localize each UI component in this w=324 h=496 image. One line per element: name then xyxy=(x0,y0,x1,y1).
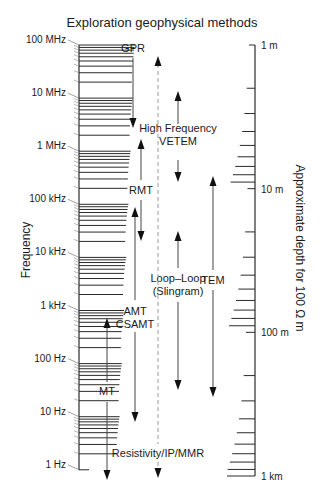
frequency-label: 10 kHz xyxy=(35,246,66,257)
method-gpr: GPR xyxy=(121,42,145,120)
method-label: MT xyxy=(99,385,115,397)
method-label: RMT xyxy=(129,184,153,196)
frequency-label: 10 MHz xyxy=(32,87,66,98)
diagram-canvas: Exploration geophysical methods 100 MHz1… xyxy=(0,0,324,496)
method-label: VETEM xyxy=(159,135,197,147)
depth-label: 1 km xyxy=(261,471,283,482)
method-rmt: RMT xyxy=(129,147,153,233)
depth-axis: 1 m10 m100 m1 km xyxy=(227,40,289,482)
depth-axis-title: Approximate depth for 100 Ω m xyxy=(293,164,307,331)
method-high-frequency-vetem: High FrequencyVETEM xyxy=(139,99,217,174)
method-label: GPR xyxy=(121,42,145,54)
method-label: Resistivity/IP/MMR xyxy=(112,447,204,459)
diagram-svg: Exploration geophysical methods 100 MHz1… xyxy=(0,0,324,496)
frequency-label: 100 kHz xyxy=(29,193,66,204)
frequency-label: 1 MHz xyxy=(37,140,66,151)
method-label: CSAMT xyxy=(116,318,155,330)
frequency-label: 1 kHz xyxy=(40,300,66,311)
frequency-axis: 100 MHz10 MHz1 MHz100 kHz10 kHz1 kHz100 … xyxy=(26,34,135,470)
method-label: (Slingram) xyxy=(153,285,204,297)
method-label: Loop–Loop xyxy=(150,272,205,284)
depth-label: 100 m xyxy=(261,327,289,338)
depth-label: 10 m xyxy=(261,184,283,195)
frequency-label: 100 Hz xyxy=(34,353,66,364)
depth-label: 1 m xyxy=(261,40,278,51)
method-label: High Frequency xyxy=(139,122,217,134)
diagram-title: Exploration geophysical methods xyxy=(67,15,258,30)
method-label: TEM xyxy=(201,274,224,286)
frequency-label: 1 Hz xyxy=(45,459,66,470)
frequency-label: 100 MHz xyxy=(26,34,66,45)
frequency-label: 10 Hz xyxy=(40,406,66,417)
frequency-axis-title: Frequency xyxy=(19,222,33,279)
method-label: AMT xyxy=(123,305,147,317)
method-tem: TEM xyxy=(201,184,224,389)
methods-arrows: GPRHigh FrequencyVETEMRMTLoop–Loop(Sling… xyxy=(99,42,225,480)
method-amt-csamt: AMTCSAMT xyxy=(116,215,155,414)
method-loop-loop-slingram-: Loop–Loop(Slingram) xyxy=(150,239,205,382)
